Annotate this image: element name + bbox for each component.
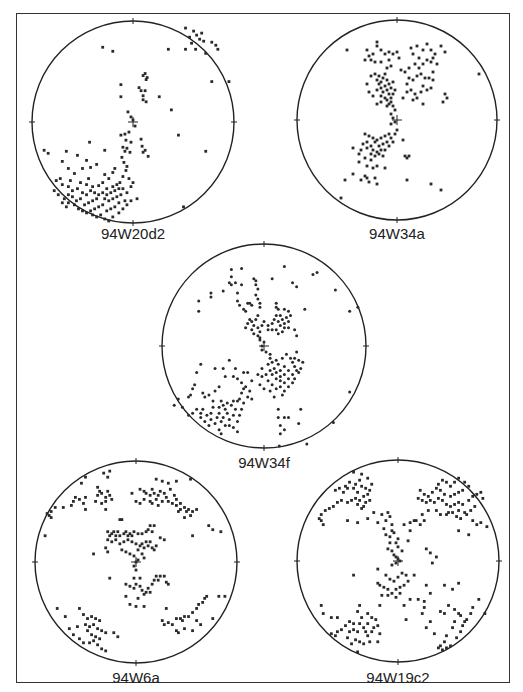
data-point: [301, 361, 304, 364]
data-point: [94, 617, 97, 620]
data-point: [378, 153, 381, 156]
data-point: [128, 131, 131, 134]
data-point: [444, 51, 447, 54]
data-point: [461, 503, 464, 506]
data-point: [368, 181, 371, 184]
data-point: [113, 167, 116, 170]
data-point: [217, 595, 220, 598]
data-point: [107, 177, 110, 180]
data-point: [360, 179, 363, 182]
data-point: [214, 367, 217, 370]
data-point: [364, 133, 367, 136]
data-point: [258, 302, 261, 305]
data-point: [467, 485, 470, 488]
data-point: [84, 508, 87, 511]
data-point: [84, 623, 87, 626]
data-point: [404, 71, 407, 74]
data-point: [430, 183, 433, 186]
data-point: [95, 216, 98, 219]
data-point: [372, 53, 375, 56]
data-point: [56, 607, 59, 610]
data-point: [106, 476, 109, 479]
data-point: [232, 426, 235, 429]
data-point: [360, 473, 363, 476]
data-point: [356, 503, 359, 506]
net-label-94W6a: 94W6a: [66, 670, 206, 686]
data-point: [191, 510, 194, 513]
data-point: [330, 632, 333, 635]
data-point: [283, 428, 286, 431]
data-point: [391, 592, 394, 595]
data-point: [265, 351, 268, 354]
data-point: [437, 497, 440, 500]
data-point: [103, 149, 106, 152]
data-point: [123, 161, 126, 164]
data-point: [78, 637, 81, 640]
data-point: [254, 279, 257, 282]
stereonet-94W34a: [294, 17, 500, 223]
data-point: [204, 150, 207, 153]
data-point: [85, 193, 88, 196]
data-point: [244, 385, 247, 388]
data-point: [358, 499, 361, 502]
data-point: [153, 524, 156, 527]
data-point: [279, 314, 282, 317]
data-point: [260, 349, 263, 352]
data-point: [131, 534, 134, 537]
data-point: [417, 497, 420, 500]
data-point: [372, 511, 375, 514]
data-point: [396, 129, 399, 132]
data-point: [218, 412, 221, 415]
data-point: [111, 185, 114, 188]
data-point: [366, 493, 369, 496]
data-point: [61, 183, 64, 186]
data-point: [417, 598, 420, 601]
data-point: [473, 505, 476, 508]
data-point: [85, 159, 88, 162]
data-point: [238, 304, 241, 307]
data-point: [67, 201, 70, 204]
data-point: [263, 320, 266, 323]
data-point: [80, 482, 83, 485]
data-point: [153, 492, 156, 495]
data-point: [295, 334, 298, 337]
data-point: [165, 607, 168, 610]
data-point: [386, 105, 389, 108]
data-point: [368, 489, 371, 492]
data-point: [384, 149, 387, 152]
data-point: [366, 517, 369, 520]
data-point: [137, 548, 140, 551]
data-point: [201, 408, 204, 411]
data-point: [368, 55, 371, 58]
data-point: [392, 117, 395, 120]
data-point: [122, 207, 125, 210]
data-point: [445, 503, 448, 506]
data-point: [453, 608, 456, 611]
data-point: [73, 203, 76, 206]
data-point: [370, 630, 373, 633]
data-point: [440, 189, 443, 192]
data-point: [392, 105, 395, 108]
net-label-94W19c2: 94W19c2: [328, 670, 468, 686]
data-point: [453, 620, 456, 623]
data-point: [443, 640, 446, 643]
data-point: [125, 139, 128, 142]
data-point: [117, 187, 120, 190]
data-point: [279, 324, 282, 327]
data-point: [477, 598, 480, 601]
data-point: [441, 648, 444, 651]
data-point: [163, 492, 166, 495]
data-point: [175, 617, 178, 620]
data-point: [192, 30, 195, 33]
data-point: [191, 534, 194, 537]
data-point: [232, 400, 235, 403]
data-point: [366, 49, 369, 52]
data-point: [453, 493, 456, 496]
data-point: [340, 628, 343, 631]
data-point: [115, 183, 118, 186]
data-point: [356, 651, 359, 654]
data-point: [439, 513, 442, 516]
data-point: [422, 85, 425, 88]
data-point: [193, 383, 196, 386]
data-point: [455, 515, 458, 518]
